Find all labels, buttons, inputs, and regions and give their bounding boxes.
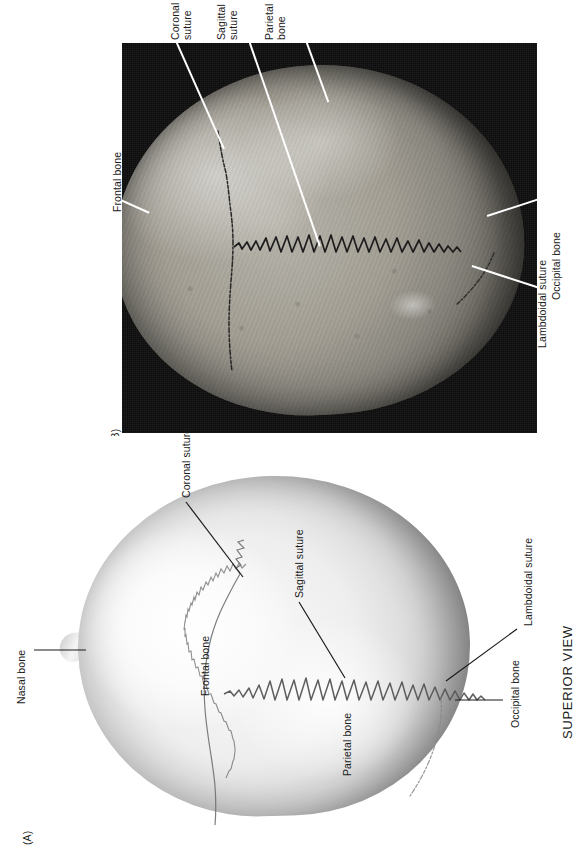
leader-coronal-suture <box>186 502 243 577</box>
panel-a-label-nasal-bone: Nasal bone <box>16 650 28 704</box>
panel-b-label-parietal-bone: Parietal bone <box>264 4 287 40</box>
panel-b-label-coronal-suture-line2: suture <box>182 3 194 40</box>
leader-lambdoidal-suture <box>446 629 517 681</box>
panel-b-label-lambdoidal-suture: Lambdoidal suture <box>537 260 549 348</box>
panel-b-label-sagittal-suture: Sagittal suture <box>216 4 239 40</box>
photo-lambdoidal-suture-path <box>457 253 494 304</box>
panel-a-illustration: Nasal bone Frontal bone Coronal suture S… <box>0 436 576 860</box>
panel-a-label-lambdoidal-suture: Lambdoidal suture <box>523 538 535 626</box>
panel-b-label-coronal-suture: Coronal suture <box>170 3 193 40</box>
anatomy-figure: Coronal suture Sagittal suture Parietal … <box>0 0 576 860</box>
panel-b-label-frontal-bone: Frontal bone <box>112 152 124 212</box>
panel-a-label-parietal-bone: Parietal bone <box>342 713 354 776</box>
panel-b-photograph <box>122 43 537 433</box>
photo-sagittal-suture-path <box>234 235 461 252</box>
lambdoidal-suture-path <box>410 698 441 796</box>
photo-coronal-suture-path <box>218 131 233 371</box>
panel-a-label-coronal-suture: Coronal suture <box>181 428 193 498</box>
panel-b-label-parietal-bone-line1: Parietal <box>264 4 276 40</box>
panel-b-label-sagittal-suture-line2: suture <box>228 4 240 40</box>
panel-b-label-sagittal-suture-line1: Sagittal <box>216 4 228 40</box>
panel-a-marker: (A) <box>22 831 34 845</box>
sagittal-suture-path <box>224 678 485 700</box>
leader-sagittal-suture <box>299 602 345 678</box>
panel-a-label-sagittal-suture: Sagittal suture <box>294 529 306 598</box>
panel-b-label-occipital-bone: Occipital bone <box>551 232 563 300</box>
drawing-suture-overlay <box>0 436 576 860</box>
panel-b-label-parietal-bone-line2: bone <box>276 4 288 40</box>
panel-a-label-occipital-bone: Occipital bone <box>510 660 522 728</box>
coronal-suture-zigzag <box>184 563 246 778</box>
figure-caption-superior-view: SUPERIOR VIEW <box>562 625 574 739</box>
panel-b-label-coronal-suture-line1: Coronal <box>170 3 182 40</box>
panel-a-label-frontal-bone: Frontal bone <box>200 636 212 696</box>
